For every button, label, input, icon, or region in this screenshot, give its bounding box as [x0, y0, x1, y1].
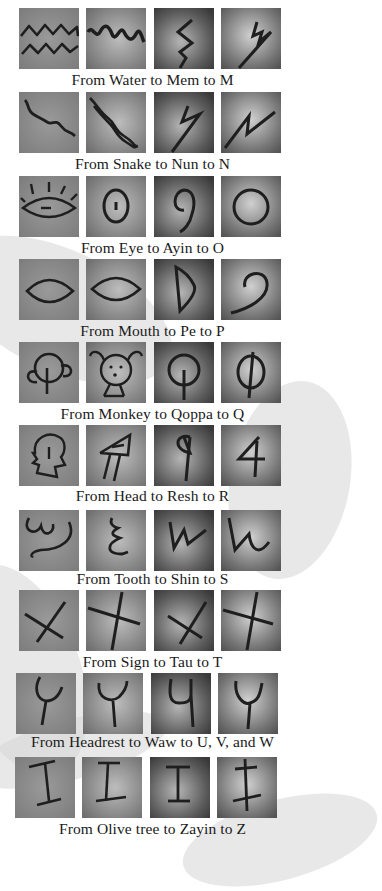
z-early-icon [217, 757, 277, 818]
p-early-icon [221, 259, 281, 320]
tau-proto-icon [86, 590, 146, 651]
zayin-proto-icon [82, 757, 142, 818]
tau-phoenician-icon [154, 590, 214, 651]
row-caption: From Olive tree to Zayin to Z [0, 820, 305, 838]
nun-proto-icon [86, 92, 146, 153]
olive-tree-pictograph-icon [15, 757, 75, 818]
shin-phoenician-icon [154, 510, 214, 571]
snake-pictograph-icon [19, 92, 79, 153]
row-caption: From Water to Mem to M [0, 71, 305, 89]
ayin-phoenician-icon [154, 176, 214, 237]
sign-pictograph-icon [19, 590, 79, 651]
pe-phoenician-icon [154, 259, 214, 320]
zayin-phoenician-icon [150, 757, 210, 818]
resh-phoenician-icon [154, 425, 214, 486]
mem-phoenician-icon [154, 8, 214, 69]
tooth-pictograph-icon [19, 510, 79, 571]
row-caption: From Eye to Ayin to O [0, 239, 305, 257]
row-caption: From Sign to Tau to T [0, 653, 305, 671]
mem-proto-icon [86, 8, 146, 69]
row-caption: From Headrest to Waw to U, V, and W [0, 733, 305, 751]
qoppa-phoenician-icon [154, 342, 214, 403]
row-caption: From Head to Resh to R [0, 487, 305, 505]
m-early-icon [221, 8, 281, 69]
shin-proto-icon [86, 510, 146, 571]
pe-proto-icon [86, 259, 146, 320]
row-caption: From Tooth to Shin to S [0, 570, 305, 588]
uvw-early-icon [218, 673, 278, 734]
o-early-icon [221, 176, 281, 237]
n-early-icon [221, 92, 281, 153]
row-caption: From Mouth to Pe to P [0, 322, 305, 340]
waw-phoenician-icon [151, 673, 211, 734]
row-caption: From Monkey to Qoppa to Q [0, 405, 305, 423]
ayin-proto-icon [86, 176, 146, 237]
resh-proto-icon [86, 425, 146, 486]
mouth-pictograph-icon [19, 259, 79, 320]
q-early-icon [221, 342, 281, 403]
eye-pictograph-icon [19, 176, 79, 237]
r-early-icon [221, 425, 281, 486]
waw-proto-icon [83, 673, 143, 734]
s-early-icon [221, 510, 281, 571]
nun-phoenician-icon [154, 92, 214, 153]
water-pictograph-icon [19, 8, 79, 69]
row-caption: From Snake to Nun to N [0, 155, 305, 173]
monkey-pictograph-icon [19, 342, 79, 403]
qoppa-proto-icon [86, 342, 146, 403]
head-pictograph-icon [19, 425, 79, 486]
headrest-pictograph-icon [16, 673, 76, 734]
t-early-icon [221, 590, 281, 651]
